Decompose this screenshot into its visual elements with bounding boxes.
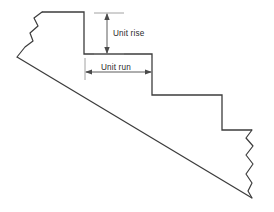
diagram-canvas: Unit rise Unit run — [0, 0, 274, 212]
left-break-line — [17, 12, 42, 57]
stair-slope-line — [17, 57, 252, 198]
stair-rise-run-diagram: Unit rise Unit run — [0, 0, 274, 212]
unit-rise-arrow-up-icon — [104, 13, 109, 20]
unit-run-arrow-left-icon — [85, 69, 92, 74]
unit-rise-arrow-down-icon — [104, 47, 109, 54]
unit-run-label: Unit run — [101, 63, 131, 72]
unit-run-arrow-right-icon — [145, 69, 152, 74]
right-break-line — [246, 130, 253, 198]
unit-rise-label: Unit rise — [113, 29, 145, 38]
